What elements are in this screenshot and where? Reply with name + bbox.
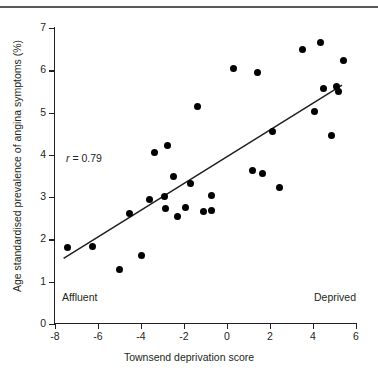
data-point — [126, 210, 133, 217]
data-point — [146, 196, 153, 203]
affluent-label: Affluent — [62, 291, 97, 303]
data-point — [187, 180, 194, 187]
data-point — [182, 204, 189, 211]
data-point — [170, 173, 177, 180]
data-point — [230, 65, 237, 72]
correlation-value: = 0.79 — [70, 152, 102, 164]
data-point — [311, 108, 318, 115]
data-point — [138, 252, 145, 259]
data-point — [174, 213, 181, 220]
scatter-plot-figure: 01234567-8-6-4-20246 r = 0.79 Affluent D… — [0, 0, 378, 375]
correlation-annotation: r = 0.79 — [66, 152, 102, 164]
x-axis-title: Townsend deprivation score — [0, 351, 378, 363]
deprived-label: Deprived — [314, 291, 356, 303]
data-point — [161, 193, 168, 200]
y-axis-title: Age standardised prevalence of angina sy… — [11, 16, 23, 316]
regression-line — [0, 0, 378, 375]
data-point — [320, 85, 327, 92]
data-point — [208, 192, 215, 199]
data-point — [254, 69, 261, 76]
data-point — [269, 128, 276, 135]
